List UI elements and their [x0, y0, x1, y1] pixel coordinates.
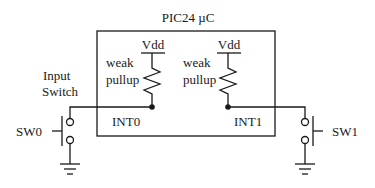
- int0-pin-label: INT0: [112, 114, 140, 129]
- left-resistor-label-1: weak: [106, 55, 134, 70]
- left-vdd-label: Vdd: [142, 37, 165, 52]
- right-resistor-label-2: pullup: [183, 72, 216, 87]
- sw1-switch: [295, 116, 323, 174]
- left-resistor-icon: [144, 53, 160, 107]
- sw0-ground-icon: [60, 164, 80, 174]
- right-pullup: Vdd weak pullup INT1: [183, 37, 262, 129]
- chip-title: PIC24 µC: [162, 10, 215, 25]
- sw0-label: SW0: [16, 124, 42, 139]
- right-resistor-icon: [220, 53, 236, 107]
- switch-caption-1: Input: [43, 68, 71, 83]
- right-vdd-label: Vdd: [218, 37, 241, 52]
- left-resistor-label-2: pullup: [106, 72, 139, 87]
- right-resistor-label-1: weak: [183, 55, 211, 70]
- int1-pin-label: INT1: [234, 114, 262, 129]
- left-pullup: Vdd weak pullup INT0: [106, 37, 165, 129]
- switch-caption-2: Switch: [42, 84, 79, 99]
- sw0-switch: [52, 116, 80, 174]
- sw1-ground-icon: [295, 164, 315, 174]
- circuit-diagram: PIC24 µC Vdd weak pullup INT0 Vdd weak p…: [0, 0, 375, 188]
- sw1-label: SW1: [332, 124, 358, 139]
